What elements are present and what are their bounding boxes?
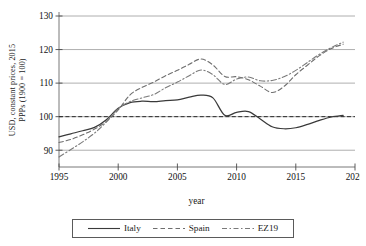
series-line-spain	[59, 44, 343, 142]
x-tick-label: 1995	[50, 172, 69, 182]
x-tick-label: 2010	[227, 172, 246, 182]
x-tick-label: 2015	[287, 172, 306, 182]
legend-item-spain: Spain	[147, 224, 216, 233]
legend-label-ez19: EZ19	[258, 224, 278, 233]
chart-figure: USD, constant prices, 2015 PPPs (1900 = …	[0, 0, 366, 246]
y-tick-label: 90	[44, 146, 54, 156]
x-tick-label: 2020	[346, 172, 360, 182]
axis-ticks	[56, 16, 356, 171]
gridlines	[59, 16, 355, 150]
tick-labels: 90100110120130199520002005201020152020	[39, 11, 360, 182]
legend-item-italy: Italy	[82, 224, 147, 233]
legend-swatch-dashed-icon	[153, 225, 185, 232]
y-axis-title: USD, constant prices, 2015 PPPs (1900 = …	[8, 5, 28, 175]
y-tick-label: 120	[39, 45, 53, 55]
data-series-layer	[59, 42, 343, 157]
y-tick-label: 110	[39, 78, 53, 88]
x-axis-title: year	[33, 196, 360, 206]
legend-swatch-solid-icon	[88, 225, 120, 232]
legend-label-italy: Italy	[124, 224, 141, 233]
y-tick-label: 100	[39, 112, 53, 122]
axis-lines	[59, 12, 355, 167]
legend-swatch-dashdot-icon	[222, 225, 254, 232]
legend-label-spain: Spain	[189, 224, 210, 233]
legend-item-ez19: EZ19	[216, 224, 284, 233]
series-line-italy	[59, 95, 343, 137]
chart-svg: 90100110120130199520002005201020152020	[33, 6, 360, 196]
plot-area: 90100110120130199520002005201020152020	[33, 6, 360, 196]
x-tick-label: 2005	[168, 172, 187, 182]
x-tick-label: 2000	[109, 172, 128, 182]
chart-legend: Italy Spain EZ19	[72, 219, 294, 238]
y-tick-label: 130	[39, 11, 53, 21]
